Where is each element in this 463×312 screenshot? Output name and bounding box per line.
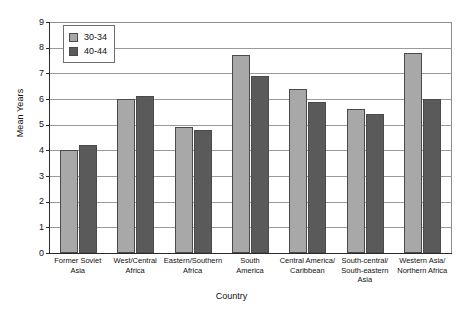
legend-label: 40-44 <box>84 47 107 56</box>
y-axis-tick-label: 0 <box>28 249 44 258</box>
x-axis-tick-label: Eastern/SouthernAfrica <box>164 256 221 275</box>
bar-30-34 <box>404 53 422 253</box>
bar-40-44 <box>308 102 326 253</box>
bar-30-34 <box>289 89 307 253</box>
y-axis-tick-label: 6 <box>28 95 44 104</box>
bar-group <box>337 22 394 253</box>
chart-legend: 30-3440-44 <box>63 25 115 63</box>
y-axis-title: Mean Years <box>15 68 25 158</box>
bar-40-44 <box>136 96 154 253</box>
bar-group <box>107 22 164 253</box>
x-axis-title: Country <box>0 291 463 301</box>
bar-30-34 <box>60 150 78 253</box>
x-axis-tick-label: South-central/South-eastern Asia <box>336 256 393 285</box>
bar-group <box>395 22 452 253</box>
bar-40-44 <box>194 130 212 253</box>
bar-group <box>165 22 222 253</box>
y-axis-tick-label: 9 <box>28 18 44 27</box>
y-axis-tick-label: 4 <box>28 146 44 155</box>
bar-chart: Mean Years 0123456789 Former SovietAsiaW… <box>0 0 463 312</box>
y-axis-tick-label: 3 <box>28 172 44 181</box>
bar-40-44 <box>79 145 97 253</box>
bar-40-44 <box>366 114 384 253</box>
y-axis-tick-label: 1 <box>28 223 44 232</box>
x-axis-tick-label: SouthAmerica <box>221 256 278 275</box>
y-axis-tick-label: 7 <box>28 69 44 78</box>
bar-group <box>222 22 279 253</box>
bar-40-44 <box>251 76 269 253</box>
bar-30-34 <box>232 55 250 253</box>
bar-30-34 <box>347 109 365 253</box>
y-axis-tick-label: 8 <box>28 43 44 52</box>
legend-item: 30-34 <box>69 30 107 44</box>
x-axis-tick-labels: Former SovietAsiaWest/CentralAfricaEaste… <box>49 256 451 286</box>
bar-40-44 <box>423 99 441 253</box>
bar-group <box>280 22 337 253</box>
y-axis-tick-labels: 0123456789 <box>28 22 44 253</box>
y-axis-tick-label: 5 <box>28 120 44 129</box>
y-axis-tickmark <box>46 253 50 254</box>
y-axis-tick-label: 2 <box>28 197 44 206</box>
legend-label: 30-34 <box>84 33 107 42</box>
legend-item: 40-44 <box>69 44 107 58</box>
bar-30-34 <box>117 99 135 253</box>
bar-30-34 <box>175 127 193 253</box>
x-axis-tick-label: Former SovietAsia <box>49 256 106 275</box>
legend-swatch-icon <box>69 47 78 56</box>
x-axis-tick-label: Central America/Caribbean <box>279 256 336 275</box>
legend-swatch-icon <box>69 33 78 42</box>
x-axis-tick-label: Western Asia/Northern Africa <box>394 256 451 275</box>
x-axis-tick-label: West/CentralAfrica <box>106 256 163 275</box>
